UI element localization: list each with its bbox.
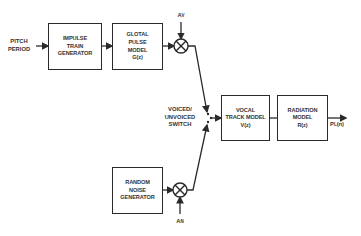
random-noise-generator-block: RANDOM NOISE GENERATOR [112, 167, 163, 214]
label-line: UNVOICED [165, 114, 196, 120]
gain-voiced-label: AV [174, 12, 188, 20]
gain-noise-label: AN [173, 218, 187, 226]
impulse-train-generator-block: IMPULSE TRAIN GENERATOR [48, 23, 102, 70]
output-signal-label: PL(n) [330, 121, 354, 129]
label-line: PITCH [10, 38, 27, 44]
switch-contacts-icon [207, 113, 212, 123]
voiced-unvoiced-switch-label: VOICED/ UNVOICED SWITCH [160, 106, 200, 129]
block-text: NOISE [120, 187, 154, 195]
vocal-track-model-block: VOCAL TRACK MODEL V(z) [221, 95, 270, 141]
label-line: VOICED/ [168, 106, 192, 112]
block-text: V(z) [225, 122, 265, 130]
label-subscript: V [182, 13, 185, 18]
glottal-pulse-model-block: GLOTAL PULSE MODEL G(z) [112, 23, 163, 70]
block-text: GLOTAL [127, 31, 149, 39]
block-text: MODEL [288, 114, 318, 122]
label-line: SWITCH [169, 121, 192, 127]
multiplier-voiced-icon [174, 39, 188, 53]
multiplier-noise-icon [173, 183, 187, 197]
block-text: GENERATOR [58, 50, 92, 58]
block-text: GENERATOR [120, 194, 154, 202]
label-subscript: N [180, 219, 183, 224]
block-text: G(z) [127, 54, 149, 62]
label-text: (n) [337, 121, 344, 127]
block-text: MODEL [127, 47, 149, 55]
block-text: VOCAL [225, 107, 265, 115]
block-text: TRAIN [58, 43, 92, 51]
pitch-period-label: PITCH PERIOD [2, 38, 36, 53]
block-text: RADIATION [288, 107, 318, 115]
block-text: R(z) [288, 122, 318, 130]
block-text: TRACK MODEL [225, 114, 265, 122]
label-line: PERIOD [8, 46, 30, 52]
block-text: IMPULSE [58, 35, 92, 43]
radiation-model-block: RADIATION MODEL R(z) [277, 95, 328, 141]
block-text: PULSE [127, 39, 149, 47]
block-text: RANDOM [120, 179, 154, 187]
